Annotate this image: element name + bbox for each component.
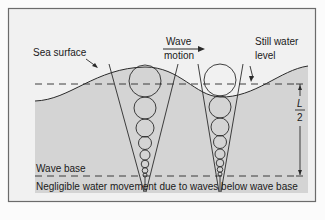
wave-diagram: Sea surface Wave motion Still water leve… (0, 0, 325, 220)
wave-base-label: Wave base (36, 163, 86, 174)
still-water-label-line1: Still water (255, 36, 298, 47)
fraction-numerator: L (297, 98, 303, 109)
caption-negligible-movement: Negligible water movement due to waves b… (36, 181, 298, 192)
wave-motion-label-line2: motion (164, 50, 194, 61)
still-water-label-line2: level (255, 50, 276, 61)
fraction-denominator: 2 (297, 112, 303, 123)
sea-surface-label: Sea surface (33, 47, 86, 58)
wave-motion-label-line1: Wave (166, 36, 191, 47)
